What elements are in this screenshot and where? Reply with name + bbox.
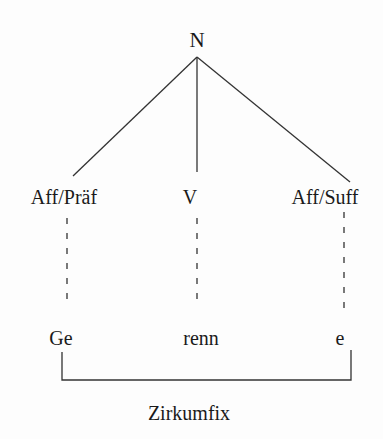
- morphology-tree-diagram: N Aff/Präf V Aff/Suff Ge renn e Zirkumfi…: [0, 0, 383, 439]
- morpheme-verb-stem: renn: [183, 328, 219, 348]
- circumfix-bracket: [62, 350, 351, 380]
- root-node-label: N: [189, 30, 204, 51]
- morpheme-prefix: Ge: [49, 328, 72, 348]
- morpheme-suffix: e: [336, 328, 345, 348]
- category-label-prefix: Aff/Präf: [31, 187, 97, 207]
- category-label-verb: V: [183, 187, 197, 207]
- branch-line-prefix: [73, 57, 197, 176]
- tree-lines: [0, 0, 383, 439]
- branch-line-suffix: [197, 57, 350, 182]
- category-label-suffix: Aff/Suff: [291, 187, 358, 207]
- circumfix-label: Zirkumfix: [148, 403, 230, 423]
